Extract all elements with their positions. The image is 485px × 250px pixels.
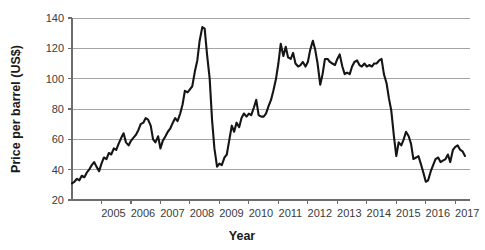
x-axis-tick-labels: 2005200620072008200920102011201220132014… [101, 207, 479, 219]
chart-canvas: 20406080100120140 2005200620072008200920… [0, 0, 485, 250]
x-tick-label: 2014 [367, 207, 391, 219]
y-tick-label: 20 [52, 194, 64, 206]
y-tick-label: 140 [46, 12, 64, 24]
gridlines [72, 18, 470, 200]
x-tick-label: 2007 [160, 207, 184, 219]
x-tick-label: 2006 [131, 207, 155, 219]
y-tick-label: 80 [52, 103, 64, 115]
y-tick-label: 60 [52, 133, 64, 145]
x-tick-label: 2009 [219, 207, 243, 219]
x-tick-label: 2012 [308, 207, 332, 219]
y-tick-label: 120 [46, 42, 64, 54]
line-chart: 20406080100120140 2005200620072008200920… [0, 0, 485, 250]
y-axis-tick-labels: 20406080100120140 [46, 12, 72, 206]
x-tick-label: 2008 [190, 207, 214, 219]
x-tick-label: 2013 [337, 207, 361, 219]
x-tick-label: 2016 [426, 207, 450, 219]
y-axis-title: Price per barrel (US$) [9, 45, 23, 173]
x-tick-label: 2005 [101, 207, 125, 219]
x-tick-label: 2017 [455, 207, 479, 219]
y-tick-label: 40 [52, 164, 64, 176]
x-tick-label: 2015 [396, 207, 420, 219]
x-tick-label: 2010 [249, 207, 273, 219]
y-tick-label: 100 [46, 73, 64, 85]
data-series-line [72, 27, 465, 183]
x-tick-label: 2011 [279, 207, 303, 219]
x-axis-title: Year [229, 229, 256, 243]
